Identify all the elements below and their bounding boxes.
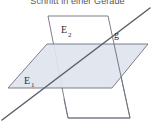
label-plane-e1-subscript: 1	[31, 81, 35, 89]
label-plane-e1: E	[24, 75, 30, 86]
label-line-g: g	[114, 29, 119, 40]
label-plane-e2: E	[61, 24, 67, 35]
label-plane-e2-subscript: 2	[68, 31, 72, 39]
planes-diagram: E 1 E 2 g	[0, 0, 155, 126]
geometry-figure: Schnitt in einer Gerade E 1 E 2 g	[0, 0, 155, 126]
